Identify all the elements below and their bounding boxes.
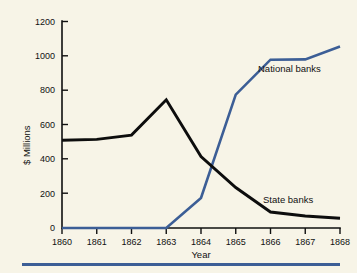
bottom-rule-divider [22,263,340,266]
y-tick-label-800: 800 [40,85,55,95]
y-tick-label-1200: 1200 [35,17,55,27]
series-annotation-state-banks: State banks [263,194,313,205]
x-tick-label-1865: 1865 [226,237,246,247]
y-tick-label-400: 400 [40,154,55,164]
y-tick-label-600: 600 [40,120,55,130]
x-tick-label-1864: 1864 [191,237,211,247]
x-tick-label-1860: 1860 [52,237,72,247]
x-tick-label-1863: 1863 [156,237,176,247]
y-tick-label-200: 200 [40,189,55,199]
series-annotation-national-banks: National banks [258,63,321,74]
x-tick-label-1868: 1868 [330,237,350,247]
chart-figure: 1200 1000 800 600 400 200 0 $ Millions 1… [0,0,357,273]
line-chart: 1200 1000 800 600 400 200 0 $ Millions 1… [0,0,357,273]
x-tick-label-1861: 1861 [87,237,107,247]
x-tick-label-1867: 1867 [295,237,315,247]
x-tick-label-1866: 1866 [260,237,280,247]
x-axis-title: Year [191,249,210,260]
y-tick-label-1000: 1000 [35,51,55,61]
x-tick-label-1862: 1862 [121,237,141,247]
y-axis-title: $ Millions [21,125,32,165]
y-tick-label-0: 0 [50,223,55,233]
